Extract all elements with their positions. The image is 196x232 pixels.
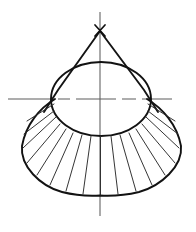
cone-development-drawing [0,0,196,232]
figure-canvas [0,0,196,232]
